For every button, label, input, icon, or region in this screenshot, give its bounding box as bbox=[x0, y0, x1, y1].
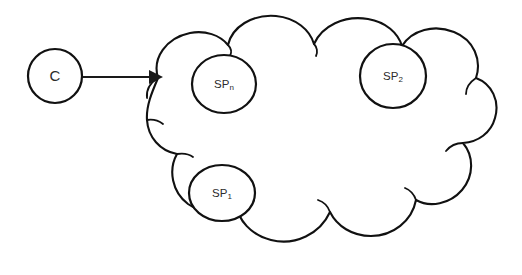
diagram-illustration: C SPn SP2 SP1 bbox=[0, 0, 522, 275]
service-provider-2[interactable]: SP2 bbox=[360, 44, 426, 108]
client-to-cloud-arrow[interactable] bbox=[83, 70, 163, 84]
sp-2-subscript: 2 bbox=[398, 75, 403, 84]
client-label: C bbox=[50, 67, 61, 84]
sp-1-subscript: 1 bbox=[227, 192, 232, 201]
client-node[interactable]: C bbox=[28, 49, 82, 103]
sp-n-subscript: n bbox=[229, 83, 233, 92]
diagram-canvas: C SPn SP2 SP1 bbox=[0, 0, 522, 275]
service-provider-n[interactable]: SPn bbox=[192, 55, 256, 113]
service-provider-1[interactable]: SP1 bbox=[189, 165, 255, 221]
sp-1-base: SP bbox=[212, 187, 228, 199]
sp-n-base: SP bbox=[214, 78, 230, 90]
sp-2-base: SP bbox=[383, 70, 399, 82]
